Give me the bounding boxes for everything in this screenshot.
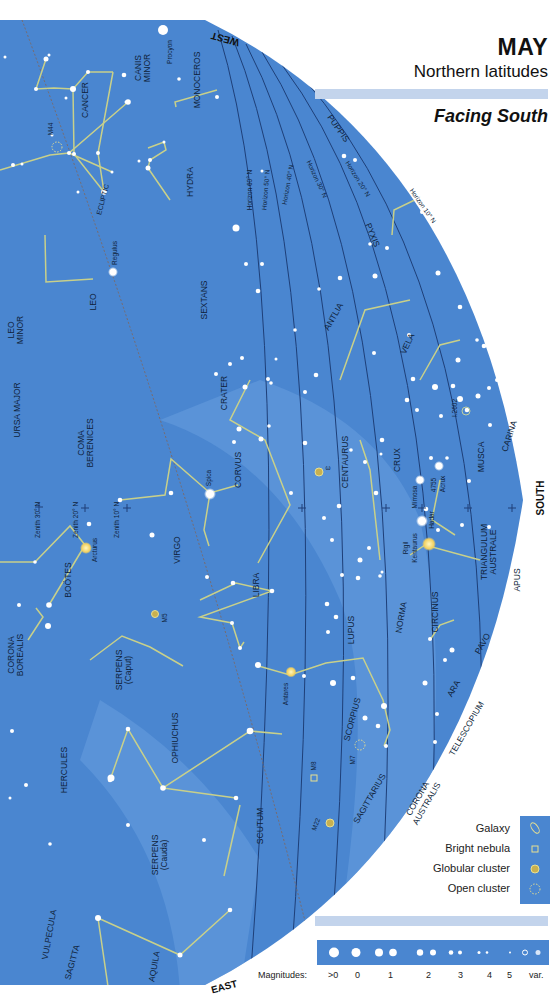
nebula-icon [532, 846, 538, 852]
header-divider-band [315, 89, 548, 99]
svg-text:Zenith 10° N: Zenith 10° N [113, 502, 120, 539]
svg-text:MINOR: MINOR [15, 316, 25, 344]
svg-text:Mimosa: Mimosa [411, 485, 418, 508]
svg-text:APUS: APUS [512, 568, 522, 591]
svg-text:SCUTUM: SCUTUM [255, 808, 265, 844]
magnitude-scale [317, 940, 549, 965]
svg-text:M44: M44 [47, 122, 54, 135]
svg-text:Zenith 30° N: Zenith 30° N [34, 502, 41, 539]
galaxy-icon [529, 821, 541, 834]
svg-text:CENTAURUS: CENTAURUS [340, 436, 350, 489]
svg-text:LEO: LEO [88, 293, 98, 310]
svg-text:AUSTRALE: AUSTRALE [488, 529, 498, 574]
svg-text:LUPUS: LUPUS [346, 615, 356, 644]
svg-text:CRUX: CRUX [392, 448, 402, 472]
east-label: EAST [210, 978, 239, 996]
footer-divider-band [315, 916, 548, 926]
svg-text:SEXTANS: SEXTANS [199, 280, 209, 319]
svg-text:VIRGO: VIRGO [172, 536, 182, 564]
svg-text:Kentaurus: Kentaurus [411, 532, 418, 562]
svg-text:ω: ω [325, 464, 330, 471]
svg-text:BOREALIS: BOREALIS [15, 633, 25, 676]
svg-text:CRATER: CRATER [219, 376, 229, 410]
svg-text:URSA MAJOR: URSA MAJOR [12, 382, 22, 437]
svg-text:(Caput): (Caput) [123, 656, 133, 685]
svg-text:M7: M7 [349, 755, 356, 764]
svg-text:Procyon: Procyon [166, 40, 174, 64]
deep-sky-legend: Galaxy Bright nebula Globular cluster Op… [360, 818, 550, 898]
svg-text:4755: 4755 [430, 477, 437, 492]
svg-text:Regulus: Regulus [111, 240, 119, 265]
svg-text:Antares: Antares [282, 682, 289, 705]
svg-text:BERENICES: BERENICES [85, 418, 95, 467]
svg-text:LIBRA: LIBRA [251, 572, 261, 597]
svg-text:Rigil: Rigil [402, 541, 410, 554]
svg-text:Zenith 20° N: Zenith 20° N [72, 502, 79, 539]
svg-text:CANCER: CANCER [80, 82, 90, 118]
open-cluster-icon [530, 884, 540, 894]
svg-text:MUSCA: MUSCA [476, 441, 486, 472]
svg-text:Arcturus: Arcturus [91, 537, 98, 562]
region-subtitle: Northern latitudes [414, 62, 548, 82]
svg-text:MINOR: MINOR [142, 54, 152, 82]
page-title: MAY [498, 34, 549, 61]
globular-cluster-icon [531, 865, 539, 873]
svg-text:Spica: Spica [205, 469, 213, 486]
svg-text:Hadar: Hadar [428, 510, 435, 529]
legend-icon-panel [520, 816, 550, 904]
svg-text:CIRCINUS: CIRCINUS [430, 591, 440, 632]
svg-text:HERCULES: HERCULES [59, 747, 69, 794]
svg-text:BOÖTES: BOÖTES [63, 562, 73, 598]
svg-text:Acrux: Acrux [439, 475, 446, 492]
svg-text:MONOCEROS: MONOCEROS [192, 51, 202, 108]
svg-text:(Cauda): (Cauda) [159, 839, 169, 870]
svg-text:CORVUS: CORVUS [233, 452, 243, 489]
facing-direction: Facing South [434, 106, 548, 127]
svg-text:OPHIUCHUS: OPHIUCHUS [170, 712, 180, 763]
south-label: SOUTH [535, 481, 546, 516]
svg-text:I.2602: I.2602 [451, 399, 458, 417]
svg-text:M5: M5 [161, 613, 168, 622]
svg-text:Horizon 60° N: Horizon 60° N [246, 169, 253, 210]
svg-text:M8: M8 [310, 761, 317, 770]
svg-text:HYDRA: HYDRA [185, 167, 195, 197]
